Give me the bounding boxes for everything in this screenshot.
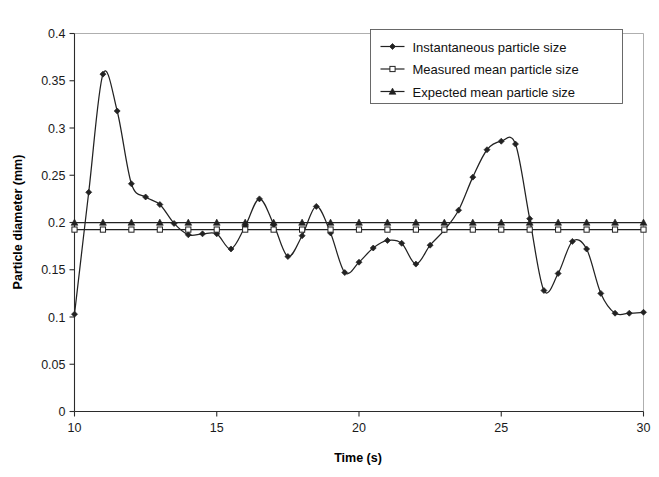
x-tick-label: 15 [210,421,224,435]
y-tick-label: 0.05 [41,358,65,372]
legend-entry-label: Instantaneous particle size [413,40,567,55]
y-tick-label: 0.2 [48,216,65,230]
legend-entry-label: Expected mean particle size [413,85,576,100]
data-point-marker [300,227,305,232]
x-tick-label: 25 [494,421,508,435]
particle-size-line-chart: 00.050.10.150.20.250.30.350.4 1015202530… [0,0,659,477]
data-point-marker [157,227,162,232]
data-point-marker [328,227,333,232]
data-point-marker [612,227,617,232]
data-point-marker [385,227,390,232]
chart-container: 00.050.10.150.20.250.30.350.4 1015202530… [0,0,659,477]
y-tick-label: 0.25 [41,169,65,183]
series-2 [72,227,646,232]
data-point-marker [499,227,504,232]
y-tick-label: 0 [59,405,66,419]
y-axis-title: Particle diameter (mm) [11,155,25,290]
chart-legend: Instantaneous particle sizeMeasured mean… [371,30,623,104]
y-tick-label: 0.3 [48,122,65,136]
y-tick-label: 0.1 [48,311,65,325]
data-point-marker [186,227,191,232]
x-axis-title: Time (s) [334,451,382,465]
legend-entry-label: Measured mean particle size [413,62,579,77]
y-tick-label: 0.15 [41,263,65,277]
legend-marker-icon [390,66,395,71]
data-point-marker [584,227,589,232]
data-point-marker [442,227,447,232]
data-point-marker [243,227,248,232]
x-tick-label: 30 [637,421,651,435]
data-point-marker [413,227,418,232]
data-point-marker [129,227,134,232]
data-point-marker [72,227,77,232]
y-tick-label: 0.4 [48,27,65,41]
data-point-marker [271,227,276,232]
data-point-marker [214,227,219,232]
x-tick-label: 10 [68,421,82,435]
y-tick-label: 0.35 [41,74,65,88]
data-point-marker [470,227,475,232]
data-point-marker [527,227,532,232]
x-tick-label: 20 [352,421,366,435]
data-point-marker [556,227,561,232]
data-point-marker [100,227,105,232]
data-point-marker [356,227,361,232]
data-point-marker [641,227,646,232]
